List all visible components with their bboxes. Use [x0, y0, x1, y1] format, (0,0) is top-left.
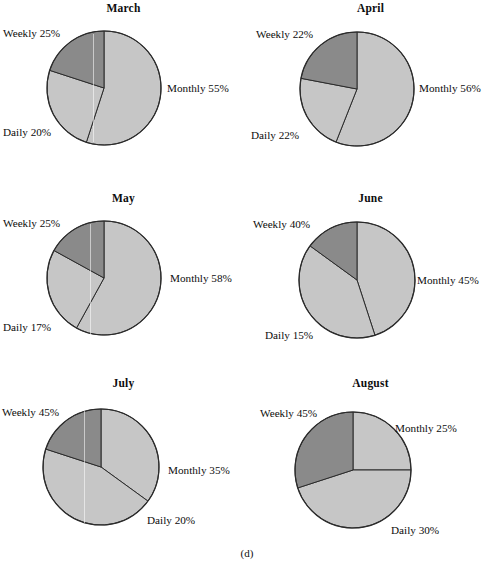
slice-label-weekly-march: Weekly 25%	[3, 28, 60, 39]
chart-april: April Monthly 56% Weekly 22% Daily 22%	[247, 0, 494, 185]
slice-label-weekly-april: Weekly 22%	[256, 29, 313, 40]
slice-label-monthly-august: Monthly 25%	[395, 423, 457, 434]
pie-svg-august	[247, 375, 494, 560]
slice-label-daily-may: Daily 17%	[3, 322, 51, 333]
figure-caption: (d)	[0, 547, 494, 559]
chart-june: June Monthly 45% Weekly 40% Daily 15%	[247, 190, 494, 375]
slice-label-monthly-june: Monthly 45%	[417, 275, 479, 286]
slice-label-weekly-july: Weekly 45%	[2, 407, 59, 418]
chart-august: August Monthly 25% Weekly 45% Daily 30%	[247, 375, 494, 560]
slice-label-weekly-may: Weekly 25%	[3, 218, 60, 229]
slice-label-daily-august: Daily 30%	[391, 525, 439, 536]
pie-chart-figure: March Monthly 55% Weekly 25% Daily 20% A…	[0, 0, 494, 565]
slice-label-monthly-april: Monthly 56%	[419, 83, 481, 94]
slice-label-daily-april: Daily 22%	[251, 130, 299, 141]
pie-slice-monthly	[353, 412, 411, 470]
chart-may: May Monthly 58% Weekly 25% Daily 17%	[0, 190, 247, 375]
slice-label-monthly-march: Monthly 55%	[167, 83, 229, 94]
slice-label-monthly-july: Monthly 35%	[168, 465, 230, 476]
slice-label-daily-july: Daily 20%	[147, 515, 195, 526]
slice-label-daily-march: Daily 20%	[3, 127, 51, 138]
slice-label-weekly-august: Weekly 45%	[260, 408, 317, 419]
pie-august	[247, 375, 494, 560]
chart-july: July Monthly 35% Weekly 45% Daily 20%	[0, 375, 247, 560]
slice-label-weekly-june: Weekly 40%	[253, 219, 310, 230]
slice-label-monthly-may: Monthly 58%	[170, 273, 232, 284]
chart-march: March Monthly 55% Weekly 25% Daily 20%	[0, 0, 247, 185]
slice-label-daily-june: Daily 15%	[265, 330, 313, 341]
